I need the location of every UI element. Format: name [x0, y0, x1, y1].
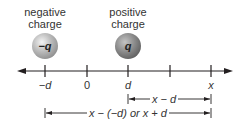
dim-arrow-left-icon — [46, 111, 52, 115]
dimension-label-x-plus-d: x − (−d) or x + d — [87, 107, 169, 119]
negative-charge-label-line1: negative — [15, 6, 75, 18]
tick-label-neg-d: −d — [33, 79, 57, 91]
charge-diagram: negative charge positive charge −q q −d … — [0, 0, 248, 130]
tick-label-x: x — [199, 79, 223, 91]
positive-charge-label: positive charge — [98, 6, 158, 30]
dim-arrow-right-icon — [204, 111, 210, 115]
positive-charge-symbol: q — [115, 40, 141, 52]
tick-label-zero: 0 — [75, 79, 99, 91]
positive-charge-label-line2: charge — [98, 18, 158, 30]
negative-charge-label-line2: charge — [15, 18, 75, 30]
right-arrow-icon — [224, 68, 233, 74]
dim-arrow-right-icon — [204, 97, 210, 101]
negative-charge-symbol: −q — [32, 40, 58, 52]
negative-charge-label: negative charge — [15, 6, 75, 30]
dimension-label-x-minus-d: x − d — [150, 93, 178, 105]
tick-label-d: d — [116, 79, 140, 91]
dim-arrow-left-icon — [129, 97, 135, 101]
left-arrow-icon — [17, 68, 26, 74]
number-line — [17, 65, 233, 77]
positive-charge-label-line1: positive — [98, 6, 158, 18]
